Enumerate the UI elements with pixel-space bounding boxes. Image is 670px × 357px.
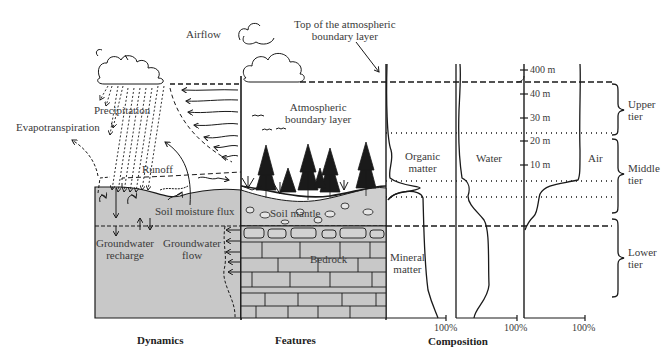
organic-line1: Organic — [405, 150, 440, 162]
precipitation-arrows — [100, 86, 164, 192]
organic-matter-label: Organic matter — [405, 150, 440, 174]
groundwater-recharge-line2: recharge — [96, 249, 154, 261]
air-axis-max: 100% — [572, 322, 595, 334]
tier-middle-label: Middle tier — [628, 162, 660, 186]
tier-upper-label: Upper tier — [628, 98, 656, 122]
soil-moisture-flux-label: Soil moisture flux — [155, 205, 234, 217]
composition-panel — [386, 64, 624, 321]
airflow-label: Airflow — [186, 28, 221, 40]
top-abl-label: Top of the atmospheric boundary layer — [294, 18, 396, 42]
groundwater-flow-line2: flow — [163, 249, 221, 261]
tier-upper-line1: Upper — [628, 98, 656, 110]
abl-line1: Atmospheric — [285, 101, 351, 113]
evapotranspiration-arrow — [72, 140, 98, 176]
groundwater-recharge-label: Groundwater recharge — [96, 237, 154, 261]
dynamics-panel — [72, 49, 241, 318]
water-column — [456, 64, 517, 321]
tier-lower-line2: tier — [628, 258, 657, 270]
scale-tick-20m: 20 m — [530, 135, 550, 147]
top-abl-line2: boundary layer — [294, 30, 396, 42]
evapotranspiration-label: Evapotranspiration — [16, 121, 100, 133]
abl-line2: boundary layer — [285, 113, 351, 125]
water-axis-max: 100% — [504, 322, 527, 334]
tier-braces — [612, 84, 624, 297]
mineral-line2: matter — [390, 263, 425, 275]
scale-tick-400m: 400 m — [530, 64, 555, 76]
groundwater-recharge-line1: Groundwater — [96, 237, 154, 249]
bedrock-label: Bedrock — [310, 253, 347, 265]
abl-label: Atmospheric boundary layer — [285, 101, 351, 125]
tier-middle-line2: tier — [628, 174, 660, 186]
dynamics-title: Dynamics — [137, 334, 183, 346]
organic-mineral-column — [386, 64, 446, 321]
runoff-label: Runoff — [142, 163, 173, 175]
groundwater-flow-line1: Groundwater — [163, 237, 221, 249]
tier-middle-line1: Middle — [628, 162, 660, 174]
air-label: Air — [588, 152, 603, 164]
soil-mantle-label: Soil mantle — [270, 207, 320, 219]
organic-axis-max: 100% — [434, 322, 457, 334]
tier-upper-line2: tier — [628, 110, 656, 122]
scale-tick-40m: 40 m — [530, 88, 550, 100]
scale-tick-10m: 10 m — [530, 159, 550, 171]
airflow-arrows — [182, 90, 238, 157]
composition-title: Composition — [428, 335, 488, 347]
tier-lower-label: Lower tier — [628, 246, 657, 270]
scale-tick-30m: 30 m — [530, 112, 550, 124]
water-label: Water — [476, 152, 502, 164]
critical-zone-diagram: Airflow Precipitation Evapotranspiration… — [0, 0, 670, 357]
mineral-line1: Mineral — [390, 251, 425, 263]
precipitation-label: Precipitation — [94, 104, 150, 116]
bird-icons — [252, 115, 286, 130]
features-title: Features — [275, 334, 316, 346]
tier-lower-line1: Lower — [628, 246, 657, 258]
groundwater-flow-label: Groundwater flow — [163, 237, 221, 261]
cloud-icon — [96, 49, 163, 84]
organic-line2: matter — [405, 162, 440, 174]
mineral-matter-label: Mineral matter — [390, 251, 425, 275]
air-column — [517, 64, 585, 321]
top-abl-line1: Top of the atmospheric — [294, 18, 396, 30]
diagram-canvas — [0, 0, 670, 357]
